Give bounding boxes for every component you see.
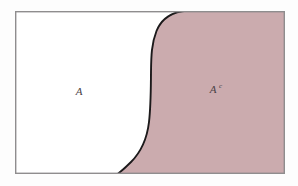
label-set-a: A	[75, 85, 83, 97]
set-diagram-canvas: A A c	[0, 0, 298, 186]
label-complement-base: A	[209, 83, 217, 95]
set-diagram-figure: A A c	[0, 0, 298, 186]
